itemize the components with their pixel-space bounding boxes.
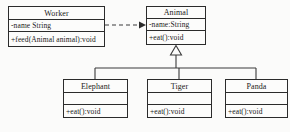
class-name-worker: Worker <box>9 7 104 20</box>
class-box-animal[interactable]: Animal -name:String +eat():void <box>146 6 206 45</box>
class-box-elephant[interactable]: Elephant +eat():void <box>63 79 128 118</box>
class-box-tiger[interactable]: Tiger +eat():void <box>147 79 212 118</box>
generalization-triangle-icon <box>171 46 182 56</box>
class-name-tiger: Tiger <box>148 80 211 93</box>
class-box-panda[interactable]: Panda +eat():void <box>225 79 288 118</box>
dependency-arrowhead-icon <box>139 22 146 29</box>
class-attributes-tiger <box>148 93 211 105</box>
generalization-connector <box>95 46 256 80</box>
uml-class-diagram: Animal (dashed with filled arrowhead) --… <box>0 0 290 132</box>
class-name-elephant: Elephant <box>64 80 127 93</box>
class-box-worker[interactable]: Worker -name String +feed(Animal animal)… <box>8 6 105 47</box>
class-attribute-worker-name: -name String <box>9 20 104 32</box>
class-operation-worker-feed: +feed(Animal animal):void <box>9 32 104 46</box>
class-operation-animal-eat: +eat():void <box>147 31 205 44</box>
class-attribute-animal-name: -name:String <box>147 19 205 31</box>
class-operation-tiger-eat: +eat():void <box>148 105 211 117</box>
dependency-connector-worker-animal <box>105 22 146 29</box>
class-attributes-panda <box>226 93 287 105</box>
class-operation-panda-eat: +eat():void <box>226 105 287 117</box>
class-operation-elephant-eat: +eat():void <box>64 105 127 117</box>
class-attributes-elephant <box>64 93 127 105</box>
class-name-panda: Panda <box>226 80 287 93</box>
class-name-animal: Animal <box>147 7 205 19</box>
